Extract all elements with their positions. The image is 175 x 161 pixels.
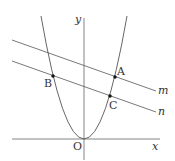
- x-axis-label: x: [152, 141, 158, 152]
- diagram: y x O A B C m n: [0, 0, 175, 161]
- origin-label: O: [73, 141, 82, 152]
- point-a-label: A: [117, 66, 125, 77]
- diagram-canvas: [0, 0, 175, 161]
- line-n-label: n: [158, 106, 165, 117]
- line-m-label: m: [158, 85, 168, 96]
- point-c-label: C: [109, 100, 117, 111]
- point-b-label: B: [44, 78, 52, 89]
- point-c: [108, 94, 111, 97]
- y-axis-label: y: [75, 14, 81, 25]
